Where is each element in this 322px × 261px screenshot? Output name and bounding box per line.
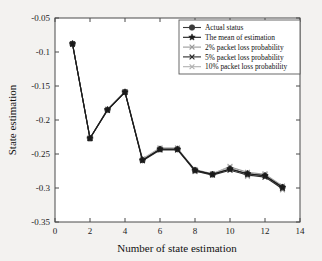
chart-canvas: 02468101214 -0.05-0.1-0.15-0.2-0.25-0.3-… (0, 0, 322, 261)
x-tick-label: 0 (53, 226, 58, 236)
y-tick-label: -0.05 (31, 13, 50, 23)
y-tick-label: -0.3 (36, 183, 51, 193)
legend-item-label: 5% packet loss probability (205, 53, 284, 62)
x-tick-label: 2 (88, 226, 93, 236)
legend-item-label: The mean of estimation (205, 33, 275, 42)
legend-item-label: Actual status (205, 23, 244, 32)
x-tick-label: 6 (158, 226, 163, 236)
legend-item-label: 2% packet loss probability (205, 43, 284, 52)
y-axis-title: State estimation (6, 84, 18, 155)
x-tick-label: 10 (226, 226, 236, 236)
y-tick-label: -0.2 (36, 115, 50, 125)
x-tick-label: 14 (296, 226, 306, 236)
legend-item-label: 10% packet loss probability (205, 62, 288, 71)
chart-legend: Actual statusThe mean of estimation2% pa… (179, 20, 300, 74)
x-tick-label: 12 (261, 226, 270, 236)
y-tick-label: -0.1 (36, 47, 50, 57)
data-point-marker-circle (189, 25, 195, 31)
chart-figure: 02468101214 -0.05-0.1-0.15-0.2-0.25-0.3-… (0, 0, 322, 261)
y-tick-label: -0.15 (31, 81, 50, 91)
x-tick-label: 4 (123, 226, 128, 236)
y-tick-label: -0.35 (31, 217, 50, 227)
y-tick-label: -0.25 (31, 149, 50, 159)
x-axis-title: Number of state estimation (117, 242, 237, 254)
x-tick-label: 8 (193, 226, 198, 236)
